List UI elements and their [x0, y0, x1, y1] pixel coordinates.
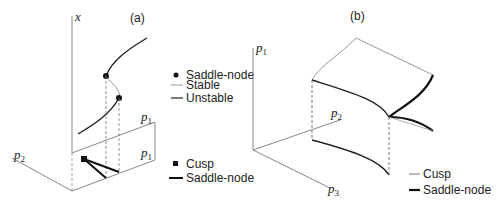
- x-axis-label: x: [74, 9, 81, 24]
- legend-b-cusp-label: Cusp: [423, 167, 451, 181]
- p3-axis: [253, 150, 330, 188]
- panel-b-label: (b): [350, 9, 365, 23]
- p1-axis-label: p1: [255, 40, 267, 57]
- p1-label-side: p1: [140, 145, 152, 162]
- saddle-node-upper-curve: [389, 75, 433, 117]
- panel-a-label: (a): [130, 11, 145, 25]
- cusp-point: [81, 156, 87, 162]
- legend-a-bottom: Cusp Saddle-node: [169, 157, 254, 185]
- legend-stable-label: Stable: [186, 78, 220, 92]
- saddle-node-line-2: [84, 159, 119, 172]
- legend-unstable-label: Unstable: [186, 91, 234, 105]
- surface-left-top-edge: [312, 38, 356, 80]
- lower-branch-curve: [78, 98, 119, 134]
- panel-a: (a) x p2 p1 p1 Saddle-n: [12, 9, 254, 191]
- p3-axis-label: p3: [327, 181, 340, 198]
- base-plane-front: [72, 160, 155, 191]
- p1-label-top: p1: [140, 109, 152, 126]
- legend-b: Cusp Saddle-node: [409, 167, 491, 197]
- middle-branch-curve: [106, 76, 119, 98]
- surface-lower-edge: [312, 140, 389, 175]
- upper-branch-curve: [106, 38, 147, 76]
- saddle-node-line-1: [84, 159, 106, 178]
- p2-axis: [253, 120, 340, 150]
- legend-saddle-node-icon: [174, 73, 179, 78]
- legend-saddle-node-line-label: Saddle-node: [186, 171, 254, 185]
- p2-axis-label: p2: [330, 105, 342, 122]
- surface-fold-front-edge: [312, 80, 389, 117]
- legend-a-top: Saddle-node Stable Unstable: [171, 68, 254, 105]
- p2-axis-label: p2: [13, 147, 25, 164]
- surface-back-edge: [356, 38, 433, 75]
- legend-cusp-label: Cusp: [186, 157, 214, 171]
- panel-b: (b) p1 p2 p3 Cusp Saddle-node: [253, 9, 491, 198]
- bifurcation-diagram: (a) x p2 p1 p1 Saddle-n: [0, 0, 501, 202]
- legend-cusp-icon: [173, 161, 178, 166]
- legend-b-saddle-node-label: Saddle-node: [423, 183, 491, 197]
